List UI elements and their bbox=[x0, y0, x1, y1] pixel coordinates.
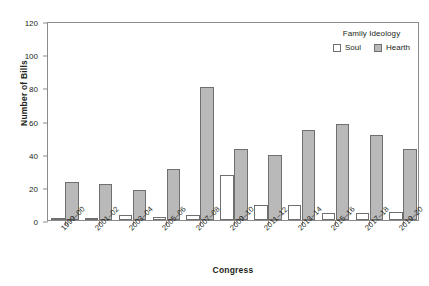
legend-entry-soul: Soul bbox=[333, 43, 361, 52]
bar-soul bbox=[220, 175, 234, 220]
chart-figure: Number of Bills 020406080100120 Family I… bbox=[0, 0, 429, 286]
y-axis-tick-label: 80 bbox=[4, 85, 38, 94]
bar-hearth bbox=[336, 124, 350, 220]
bar-soul bbox=[356, 213, 370, 220]
bar-hearth bbox=[200, 87, 214, 220]
bar-soul bbox=[186, 215, 200, 220]
y-axis-tick-mark bbox=[43, 222, 48, 223]
bar-soul bbox=[119, 215, 133, 220]
bar-soul bbox=[254, 205, 268, 220]
plot-area: 020406080100120 Family Ideology SoulHear… bbox=[47, 22, 419, 221]
bar-soul bbox=[322, 213, 336, 220]
bar-soul bbox=[288, 205, 302, 220]
bar-soul bbox=[85, 218, 99, 220]
legend-label: Soul bbox=[345, 43, 361, 52]
x-axis-title: Congress bbox=[47, 265, 419, 275]
legend: Family Ideology SoulHearth bbox=[333, 29, 410, 52]
y-axis-tick-label: 20 bbox=[4, 184, 38, 193]
bar-hearth bbox=[302, 130, 316, 220]
y-axis-tick-label: 0 bbox=[4, 218, 38, 227]
legend-entries: SoulHearth bbox=[333, 43, 410, 52]
legend-label: Hearth bbox=[386, 43, 410, 52]
bar-soul bbox=[51, 218, 65, 220]
legend-title: Family Ideology bbox=[333, 29, 410, 38]
y-axis-tick-label: 60 bbox=[4, 118, 38, 127]
bar-soul bbox=[153, 217, 167, 220]
bar-series-container bbox=[48, 23, 418, 220]
legend-entry-hearth: Hearth bbox=[374, 43, 410, 52]
y-axis-tick-label: 40 bbox=[4, 151, 38, 160]
legend-swatch-icon bbox=[333, 44, 341, 52]
y-axis-tick-label: 120 bbox=[4, 19, 38, 28]
bar-soul bbox=[389, 212, 403, 220]
legend-swatch-icon bbox=[374, 44, 382, 52]
y-axis-tick-label: 100 bbox=[4, 52, 38, 61]
